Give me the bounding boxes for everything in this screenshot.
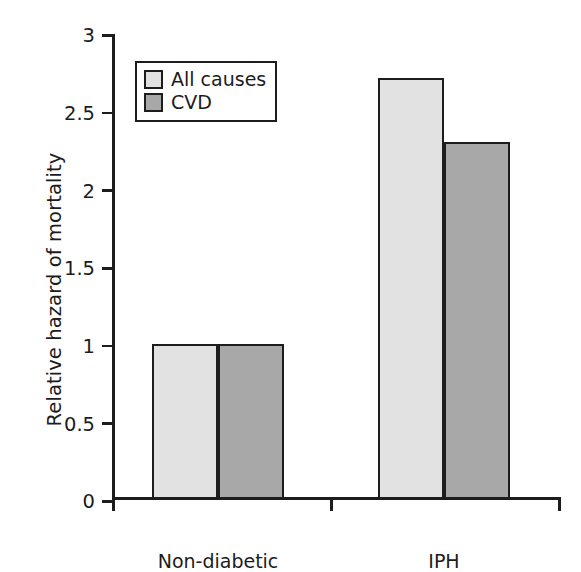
y-tick-0: 0 — [102, 500, 112, 503]
legend-entry-all-causes: All causes — [144, 68, 266, 91]
y-tick-0-5: 0.5 — [102, 422, 112, 425]
x-category-label-iph: IPH — [384, 550, 504, 572]
bar-iph-all-causes — [378, 78, 444, 499]
y-tick-label-1: 1 — [83, 334, 95, 357]
y-tick-3: 3 — [102, 34, 112, 37]
legend-entry-cvd: CVD — [144, 91, 266, 114]
legend-swatch-icon-cvd — [144, 93, 163, 112]
y-tick-label-0: 0 — [83, 490, 95, 513]
y-axis-line — [112, 34, 115, 501]
y-tick-label-2: 2 — [83, 179, 95, 202]
x-category-label-non-diabetic: Non-diabetic — [132, 550, 304, 572]
legend: All causes CVD — [135, 61, 277, 122]
y-axis-title: Relative hazard of mortality — [43, 100, 66, 480]
y-tick-label-3: 3 — [83, 24, 95, 47]
y-tick-label-0-5: 0.5 — [64, 412, 95, 435]
bar-non-diabetic-all-causes — [152, 344, 218, 499]
legend-label-cvd: CVD — [171, 93, 212, 112]
y-tick-2-5: 2.5 — [102, 112, 112, 115]
legend-label-all-causes: All causes — [171, 70, 266, 89]
y-tick-1-5: 1.5 — [102, 267, 112, 270]
legend-swatch-icon-all-causes — [144, 70, 163, 89]
y-tick-2: 2 — [102, 189, 112, 192]
y-tick-label-1-5: 1.5 — [64, 257, 95, 280]
y-tick-label-2-5: 2.5 — [64, 101, 95, 124]
y-tick-1: 1 — [102, 345, 112, 348]
x-tick-start — [112, 500, 115, 511]
x-tick-end — [558, 500, 561, 511]
bar-non-diabetic-cvd — [218, 344, 284, 499]
x-tick-middle — [330, 500, 333, 511]
bar-iph-cvd — [444, 142, 510, 499]
